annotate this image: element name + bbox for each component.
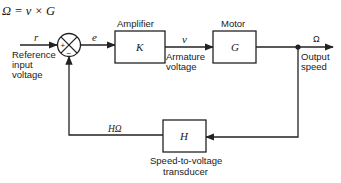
armature-signal-label: v (182, 33, 187, 45)
transducer-symbol: H (179, 130, 189, 142)
motor-title: Motor (221, 18, 245, 29)
armature-label-line-2: voltage (166, 61, 197, 72)
input-signal-label: r (34, 31, 39, 43)
output-label-line-2: speed (301, 61, 327, 72)
minus-sign: − (67, 49, 72, 58)
output-arrow (256, 44, 333, 49)
plus-sign: + (61, 41, 66, 50)
transducer-label-line-2: transducer (163, 166, 208, 177)
output-signal-label: Ω (313, 34, 320, 44)
error-signal-label: e (92, 31, 97, 43)
feedback-signal-label: HΩ (107, 124, 122, 134)
amplifier-symbol: K (135, 41, 144, 53)
equation-text: Ω = v × G (2, 4, 55, 18)
amplifier-title: Amplifier (117, 18, 154, 29)
motor-symbol: G (231, 41, 239, 53)
block-diagram: Ω = v × G r Reference input voltage + − … (0, 0, 341, 183)
input-label-line-3: voltage (12, 69, 43, 80)
transducer-label-line-1: Speed-to-voltage (150, 155, 222, 166)
